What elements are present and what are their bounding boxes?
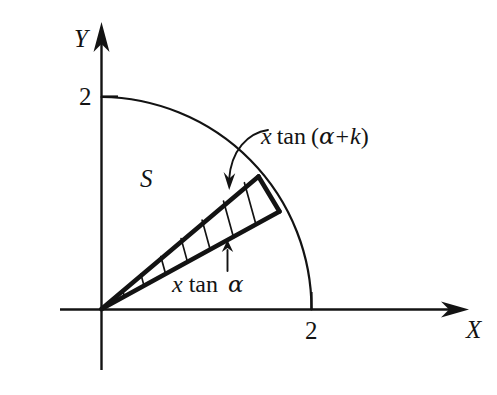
outer-annotation-increment: k xyxy=(350,123,361,149)
y-axis-tick-label-2: 2 xyxy=(79,84,92,109)
x-axis-label: X xyxy=(466,317,481,342)
axes-group xyxy=(60,22,469,370)
region-label-s: S xyxy=(140,166,153,191)
inner-annotation-alpha: α xyxy=(228,271,244,297)
x-axis-tick-label-2: 2 xyxy=(305,318,318,343)
figure-canvas xyxy=(0,0,497,395)
outer-annotation-close-paren: ) xyxy=(361,123,369,149)
outer-annotation-alpha: α xyxy=(319,123,335,149)
geometry-figure: Y X 2 2 S xtan(α+k) xtanα xyxy=(0,0,497,395)
inner-annotation-variable: x xyxy=(172,271,183,297)
outer-ray-annotation: xtan(α+k) xyxy=(261,124,369,148)
inner-ray-annotation: xtanα xyxy=(172,272,244,296)
outer-annotation-operator: + xyxy=(335,123,351,149)
y-axis-label: Y xyxy=(74,26,88,51)
inner-annotation-function: tan xyxy=(189,271,218,297)
outer-annotation-variable: x xyxy=(261,123,272,149)
outer-annotation-function: tan xyxy=(277,123,306,149)
outer-annotation-open-paren: ( xyxy=(311,123,319,149)
